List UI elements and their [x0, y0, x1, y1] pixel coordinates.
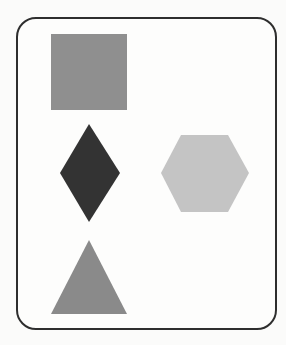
hexagon-shape [161, 135, 249, 212]
square-shape [51, 34, 127, 110]
shapes-layer [0, 0, 286, 345]
diamond-shape [60, 124, 120, 222]
figure-canvas [0, 0, 286, 345]
triangle-shape [51, 240, 127, 314]
